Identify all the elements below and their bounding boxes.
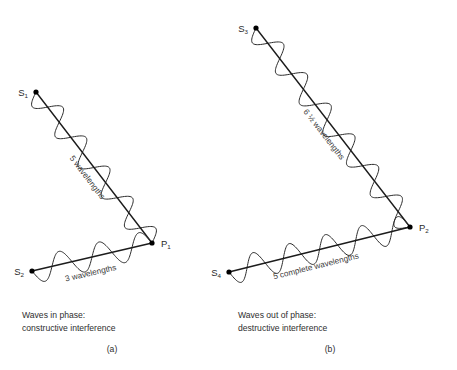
point-p1-subscript: 1 bbox=[167, 243, 171, 250]
source-s1-subscript: 1 bbox=[25, 92, 29, 99]
source-s2-dot bbox=[29, 268, 34, 273]
caption-a-line2: constructive interference bbox=[22, 323, 116, 333]
source-s3-subscript: 3 bbox=[245, 28, 249, 35]
panel-tag-a: (a) bbox=[107, 344, 118, 354]
point-p1-dot bbox=[149, 240, 154, 245]
point-p2-subscript: 2 bbox=[425, 227, 429, 234]
caption-b-line2: destructive interference bbox=[238, 323, 328, 333]
source-s1-dot bbox=[33, 89, 38, 94]
source-s4-subscript: 4 bbox=[218, 272, 222, 279]
caption-b-line1: Waves out of phase: bbox=[238, 310, 316, 320]
interference-diagram: 5 wavelengths3 wavelengthsS1S2P16 ½ wave… bbox=[0, 0, 457, 370]
source-s3-dot bbox=[253, 25, 258, 30]
source-s2-subscript: 2 bbox=[21, 271, 25, 278]
caption-a-line1: Waves in phase: bbox=[22, 310, 85, 320]
point-p2-dot bbox=[407, 224, 412, 229]
panel-tag-b: (b) bbox=[325, 344, 336, 354]
source-s4-dot bbox=[226, 269, 231, 274]
